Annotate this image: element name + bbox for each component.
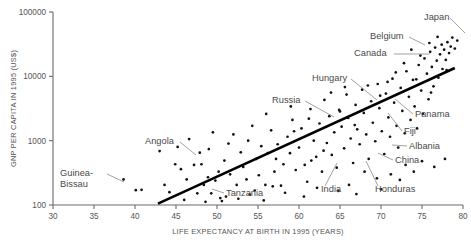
data-point: [307, 117, 310, 120]
data-point: [433, 166, 436, 169]
scatter-chart: 100100010000100000 303540455055606570758…: [0, 0, 471, 240]
data-point: [217, 170, 220, 173]
country-labels: JapanBelgiumCanadaHungaryRussiaPanamaFij…: [60, 12, 450, 198]
data-point: [303, 195, 306, 198]
data-point: [391, 77, 394, 80]
data-point: [340, 125, 343, 128]
data-point: [352, 162, 355, 165]
data-point: [453, 47, 456, 50]
data-point: [282, 163, 285, 166]
data-point: [339, 110, 342, 113]
data-point: [163, 184, 166, 187]
data-point: [370, 100, 373, 103]
x-tick-label: 45: [171, 212, 181, 221]
x-axis-ticks: 3035404550556065707580: [48, 205, 468, 221]
data-point: [219, 197, 222, 200]
data-point: [196, 192, 199, 195]
data-point: [294, 169, 297, 172]
data-point: [198, 151, 201, 154]
y-tick-label: 1000: [28, 137, 47, 146]
leader-line: [388, 113, 402, 131]
x-tick-label: 50: [212, 212, 222, 221]
data-point: [174, 163, 177, 166]
data-point: [371, 121, 374, 124]
data-point: [397, 146, 400, 149]
country-label: Belgium: [370, 31, 404, 41]
data-point: [310, 159, 313, 162]
data-point: [247, 139, 250, 142]
data-point: [354, 104, 357, 107]
data-point: [335, 166, 338, 169]
data-point: [430, 66, 433, 69]
data-point: [379, 94, 382, 97]
data-point: [330, 91, 333, 94]
data-point: [421, 160, 424, 163]
data-point: [429, 51, 432, 54]
data-point: [344, 86, 347, 89]
data-point: [318, 122, 321, 125]
data-point: [227, 142, 230, 145]
x-tick-label: 80: [458, 212, 468, 221]
data-point: [423, 57, 426, 60]
data-point: [443, 48, 446, 51]
x-tick-label: 35: [89, 212, 99, 221]
data-point: [393, 101, 396, 104]
data-point: [374, 140, 377, 143]
country-label: Guinea-Bissau: [60, 168, 93, 189]
leader-line: [107, 174, 124, 182]
y-tick-label: 100000: [19, 8, 47, 17]
y-tick-label: 10000: [23, 72, 46, 81]
data-point: [387, 116, 390, 119]
data-point: [401, 110, 404, 113]
country-label-line: Guinea-: [60, 168, 93, 178]
data-point: [412, 170, 415, 173]
x-tick-label: 55: [253, 212, 263, 221]
data-point: [386, 81, 389, 84]
data-point: [349, 137, 352, 140]
data-point: [444, 59, 447, 62]
data-point: [367, 84, 370, 87]
data-point: [193, 164, 196, 167]
data-point: [333, 131, 336, 134]
data-point: [223, 159, 226, 162]
country-label: Japan: [424, 12, 449, 22]
data-point: [428, 42, 431, 45]
data-point: [365, 133, 368, 136]
data-point: [355, 193, 358, 196]
data-point: [312, 139, 315, 142]
data-point: [264, 184, 267, 187]
data-point: [210, 192, 213, 195]
data-point: [323, 99, 326, 102]
data-point: [348, 184, 351, 187]
data-point: [378, 107, 381, 110]
data-point: [303, 164, 306, 167]
data-point: [207, 176, 210, 179]
data-point: [353, 124, 356, 127]
leader-line: [180, 142, 196, 155]
data-point: [389, 173, 392, 176]
data-point: [440, 43, 443, 46]
leader-line: [409, 37, 425, 45]
data-point: [214, 179, 217, 182]
data-point: [376, 177, 379, 180]
data-point: [426, 72, 429, 75]
data-point: [441, 68, 444, 71]
country-label: Hungary: [312, 73, 347, 83]
data-point: [289, 152, 292, 155]
leader-line: [392, 145, 407, 146]
data-point: [284, 191, 287, 194]
data-point: [309, 108, 312, 111]
x-tick-label: 60: [294, 212, 304, 221]
data-point: [204, 200, 207, 203]
data-point: [271, 185, 274, 188]
data-point: [276, 143, 279, 146]
data-point: [416, 127, 419, 130]
leader-line: [351, 79, 377, 100]
data-point: [403, 62, 406, 65]
country-label: Tanzania: [226, 188, 264, 198]
data-points: [122, 36, 458, 204]
data-point: [251, 124, 254, 127]
data-point: [140, 189, 143, 192]
data-point: [430, 91, 433, 94]
data-point: [358, 143, 361, 146]
